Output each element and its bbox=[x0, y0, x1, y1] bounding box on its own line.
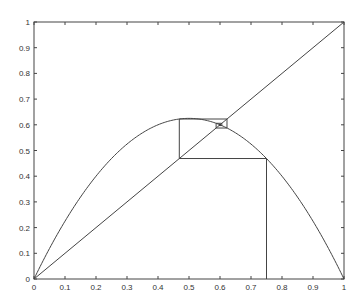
x-tick-label: 0.9 bbox=[307, 283, 319, 292]
logistic-curve bbox=[34, 118, 344, 279]
x-tick-label: 0.4 bbox=[152, 283, 164, 292]
y-tick-label: 0.3 bbox=[19, 198, 31, 207]
y-tick-label: 0.7 bbox=[19, 95, 31, 104]
cobweb-plot: 00.10.20.30.40.50.60.70.80.9100.10.20.30… bbox=[0, 0, 364, 301]
y-tick-label: 0.4 bbox=[19, 172, 31, 181]
y-tick-label: 0.5 bbox=[19, 147, 31, 156]
y-tick-label: 0.9 bbox=[19, 44, 31, 53]
cobweb-path bbox=[179, 119, 266, 279]
y-tick-label: 1 bbox=[26, 18, 31, 27]
y-tick-label: 0.8 bbox=[19, 69, 31, 78]
y-tick-label: 0.6 bbox=[19, 121, 31, 130]
x-tick-label: 0.8 bbox=[276, 283, 288, 292]
x-tick-label: 0.3 bbox=[121, 283, 133, 292]
x-tick-label: 0 bbox=[32, 283, 37, 292]
y-tick-label: 0 bbox=[26, 275, 31, 284]
x-tick-label: 1 bbox=[342, 283, 347, 292]
plot-area: 00.10.20.30.40.50.60.70.80.9100.10.20.30… bbox=[0, 0, 364, 301]
x-tick-label: 0.1 bbox=[59, 283, 71, 292]
x-tick-label: 0.2 bbox=[90, 283, 102, 292]
y-tick-label: 0.1 bbox=[19, 249, 31, 258]
x-tick-label: 0.5 bbox=[183, 283, 195, 292]
identity-line bbox=[34, 22, 344, 279]
x-tick-label: 0.6 bbox=[214, 283, 226, 292]
x-tick-label: 0.7 bbox=[245, 283, 257, 292]
y-tick-label: 0.2 bbox=[19, 224, 31, 233]
